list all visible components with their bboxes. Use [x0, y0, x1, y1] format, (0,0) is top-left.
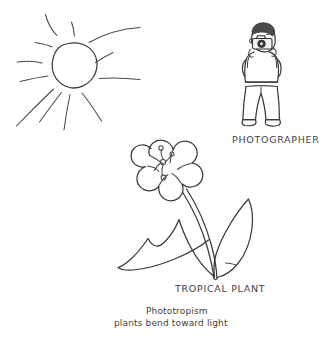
leaf-right-notch-icon: [226, 263, 237, 265]
sun-ray-icon: [20, 76, 48, 82]
sun-ray-icon: [40, 93, 62, 123]
sun-ray-icon: [17, 89, 54, 126]
leaf-left-icon: [118, 220, 215, 278]
illustration-canvas: [0, 0, 327, 348]
shoe-left-icon: [242, 120, 256, 126]
stamen-icon: [161, 150, 163, 160]
brow-icon: [267, 34, 273, 35]
waistband-lower-icon: [246, 86, 277, 87]
flower-petals-icon: [131, 140, 203, 201]
sun-ray-icon: [72, 22, 75, 36]
plant-figure: [118, 140, 252, 279]
camera-viewfinder-icon: [257, 36, 266, 39]
sun-disc-icon: [52, 43, 97, 88]
petal-crease-icon: [172, 174, 181, 184]
sun-figure: [17, 15, 141, 131]
sun-ray-icon: [96, 53, 114, 63]
stem-icon: [183, 192, 215, 279]
leaf-right-icon: [214, 199, 252, 278]
sun-ray-icon: [89, 28, 140, 43]
photographer-figure: [242, 23, 281, 126]
sun-ray-icon: [17, 61, 42, 63]
petal-crease-icon: [178, 164, 192, 170]
shoe-right-icon: [265, 120, 280, 126]
camera-lens-inner-icon: [260, 42, 263, 45]
sun-ray-icon: [64, 95, 70, 131]
stem-base-icon: [214, 279, 218, 280]
sun-ray-icon: [35, 43, 52, 48]
sun-ray-icon: [100, 78, 141, 80]
sun-ray-icon: [82, 93, 102, 121]
stamen-icon: [162, 165, 163, 176]
sun-ray-icon: [46, 15, 58, 36]
